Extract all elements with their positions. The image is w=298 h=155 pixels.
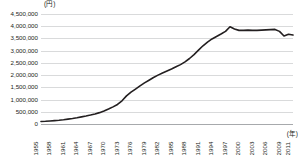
x-axis-tick-label: 1976	[127, 141, 133, 155]
x-axis-tick-label: 2011	[284, 142, 290, 155]
x-axis-tick-label: 1994	[208, 141, 214, 155]
y-axis-tick-label: 3,500,000	[10, 35, 38, 41]
y-axis-tick-label: 4,000,000	[10, 23, 38, 29]
y-axis-tick-label: 500,000	[16, 109, 38, 115]
x-axis-tick-label: 2000	[235, 141, 241, 155]
x-axis-tick-label: 2003	[248, 141, 254, 155]
x-axis-tick-label: 1991	[194, 141, 200, 155]
x-axis-tick-label: 1997	[221, 141, 227, 155]
x-axis-tick-label: 1979	[140, 141, 146, 155]
x-axis-tick-label: 1988	[181, 141, 187, 155]
y-axis-tick-label: 3,000,000	[10, 48, 38, 54]
x-axis-tick-label: 1958	[46, 141, 52, 155]
plot-area	[41, 14, 293, 124]
y-axis-tick-labels: 4,500,0004,000,0003,500,0003,000,0002,50…	[0, 0, 38, 132]
x-axis-tick-label: 1973	[113, 141, 119, 155]
y-axis-tick-label: 4,500,000	[10, 11, 38, 17]
x-axis-baseline	[41, 124, 293, 125]
line-chart: (円) 4,500,0004,000,0003,500,0003,000,000…	[0, 0, 298, 155]
x-axis-tick-labels: 1955195819611964196719701973197619791982…	[41, 126, 293, 155]
data-series-line	[41, 14, 293, 124]
y-axis-tick-label: 1,000,000	[10, 97, 38, 103]
y-axis-tick-label: 0	[35, 121, 38, 127]
x-axis-tick-label: 1982	[154, 141, 160, 155]
y-axis-unit-label: (円)	[44, 0, 55, 8]
x-axis-tick-label: 1970	[100, 141, 106, 155]
x-axis-tick-label: 2009	[275, 141, 281, 155]
x-axis-tick-label: 1955	[32, 141, 38, 155]
x-axis-tick-label: 1964	[73, 141, 79, 155]
x-axis-unit-label: (年)	[287, 130, 298, 137]
y-axis-tick-label: 2,000,000	[10, 72, 38, 78]
x-axis-tick-label: 1967	[86, 141, 92, 155]
x-axis-tick-label: 1961	[59, 141, 65, 155]
y-axis-tick-label: 1,500,000	[10, 84, 38, 90]
x-axis-tick-label: 2006	[262, 141, 268, 155]
x-axis-tick-label: 1985	[167, 141, 173, 155]
y-axis-tick-label: 2,500,000	[10, 60, 38, 66]
